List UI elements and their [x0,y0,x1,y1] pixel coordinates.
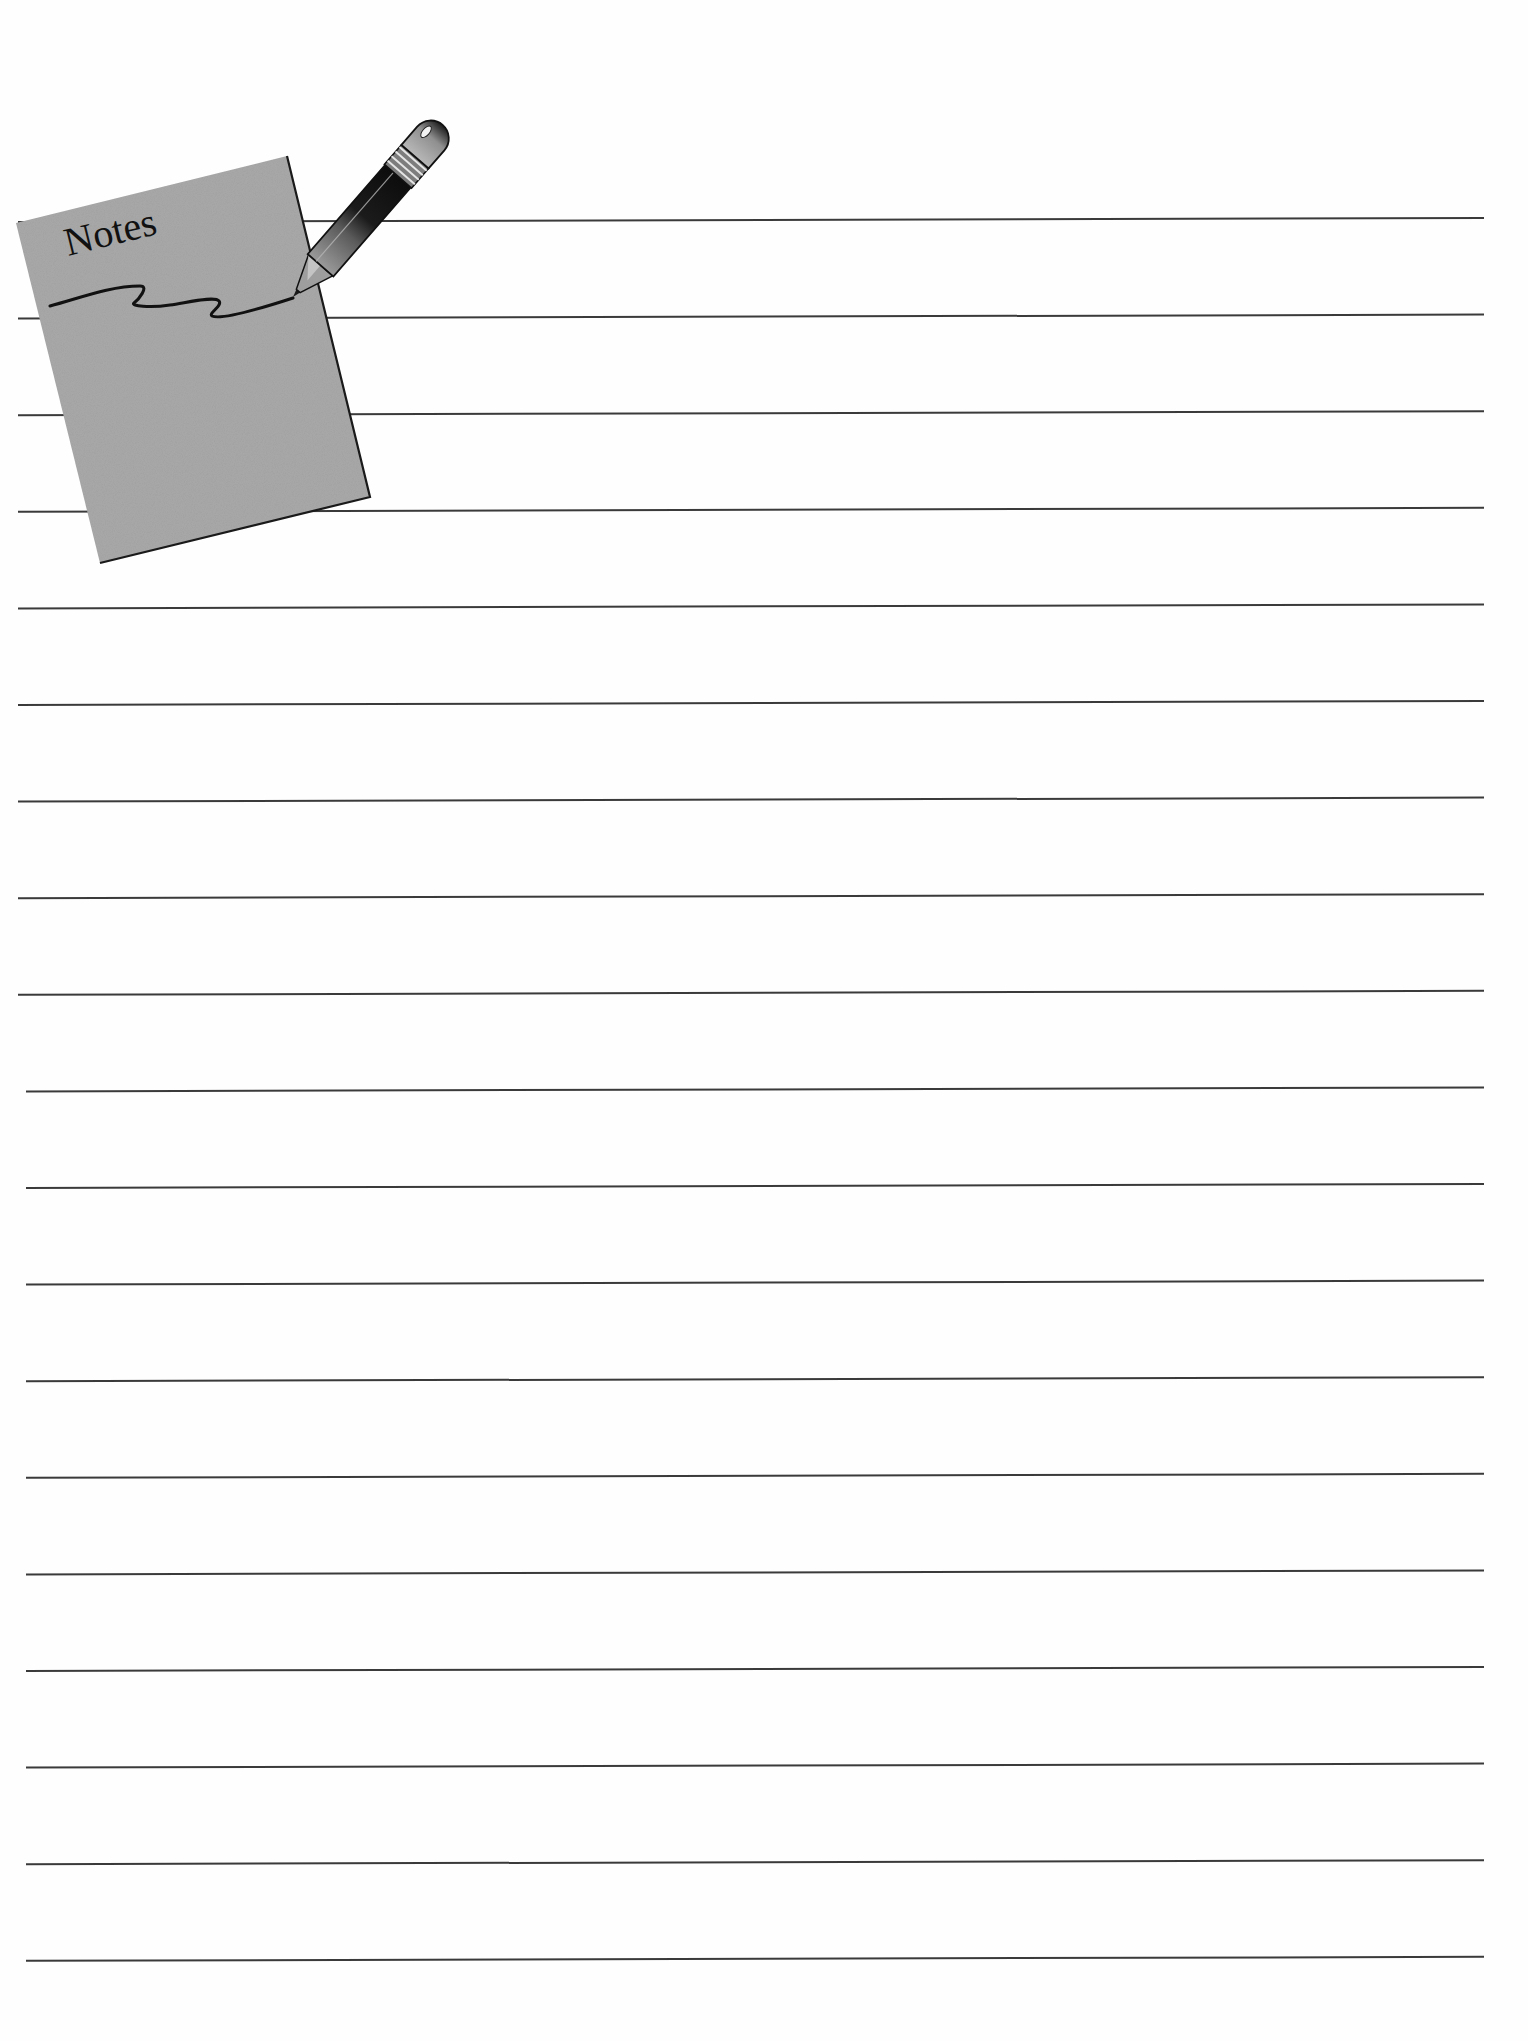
ruled-line [26,1860,1484,1864]
ruled-line [26,1281,1484,1285]
ruled-line [26,1087,1484,1091]
notes-page: Notes [0,0,1528,2041]
ruled-line [26,1764,1484,1768]
ruled-line [26,1474,1484,1478]
ruled-line [26,1667,1484,1671]
ruled-line [26,1570,1484,1574]
ruled-line [18,798,1484,802]
ruled-line [18,991,1484,995]
ruled-line [18,701,1484,705]
ruled-line [18,604,1484,608]
notepad-pencil-illustration: Notes [0,90,500,590]
ruled-line [26,1377,1484,1381]
ruled-line [18,894,1484,898]
pencil-icon [279,113,456,309]
ruled-line [26,1957,1484,1961]
notepad-icon: Notes [16,156,370,563]
ruled-line [26,1184,1484,1188]
